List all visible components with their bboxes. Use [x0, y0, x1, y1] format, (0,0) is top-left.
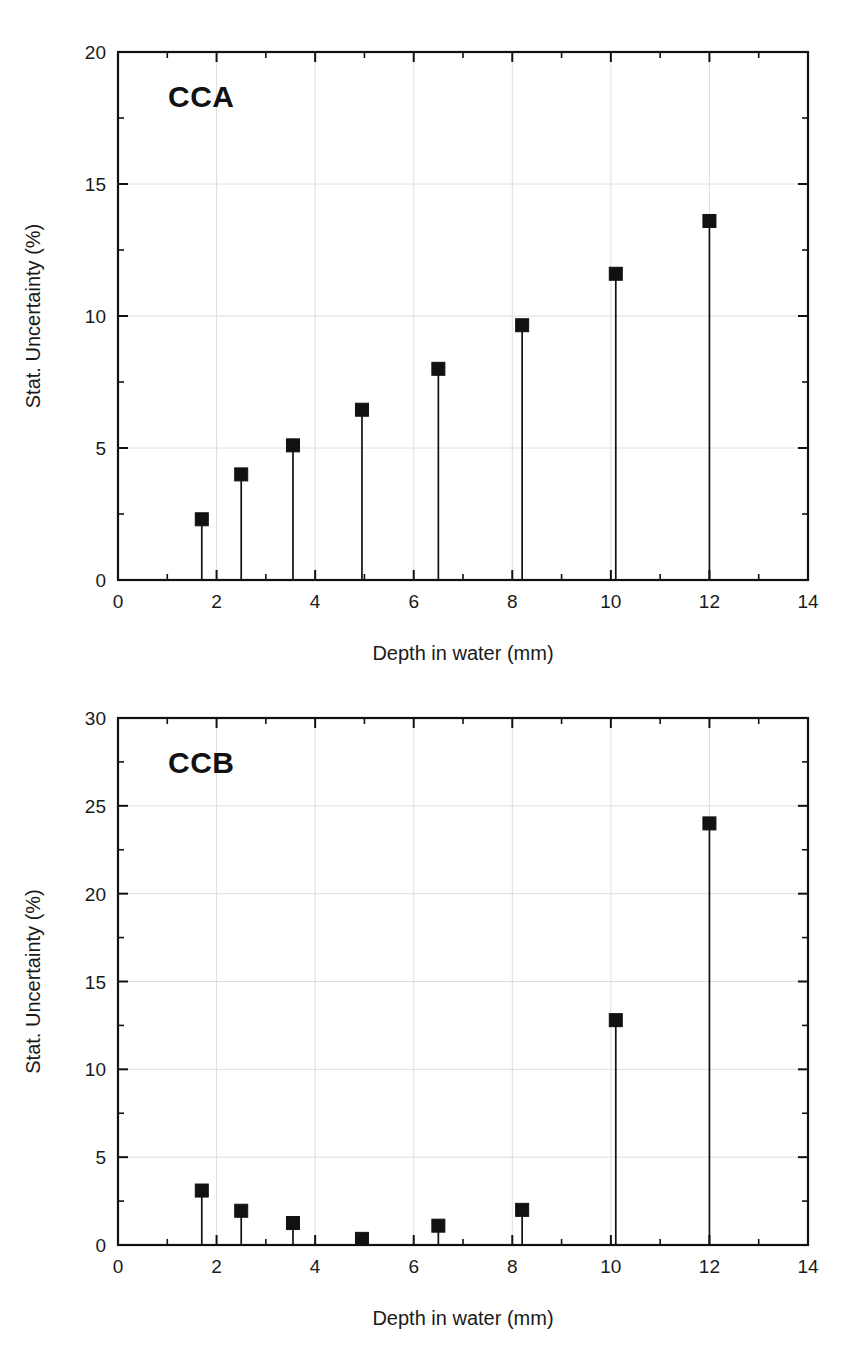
y-axis-tick-label: 25	[85, 796, 106, 817]
data-series-group	[195, 817, 716, 1245]
y-axis-title: Stat. Uncertainty (%)	[22, 224, 44, 409]
data-point-marker	[432, 362, 445, 375]
data-point-marker	[703, 817, 716, 830]
panel-title-ccb: CCB	[168, 746, 235, 779]
data-point-marker	[286, 1217, 299, 1230]
x-axis-tick-label: 0	[113, 591, 124, 612]
x-axis-title: Depth in water (mm)	[372, 642, 553, 664]
x-axis-tick-label: 4	[310, 1256, 321, 1277]
x-axis-tick-label: 12	[699, 1256, 720, 1277]
chart-panel-ccb: 02468101214051015202530Depth in water (m…	[0, 685, 855, 1369]
panel-title-cca: CCA	[168, 80, 235, 113]
y-axis-tick-label: 5	[95, 1147, 106, 1168]
labels-group: 02468101214051015202530Depth in water (m…	[22, 708, 819, 1329]
y-axis-tick-label: 0	[95, 570, 106, 591]
x-axis-tick-label: 0	[113, 1256, 124, 1277]
y-axis-tick-label: 10	[85, 1059, 106, 1080]
data-point-marker	[516, 1203, 529, 1216]
data-point-marker	[355, 1232, 368, 1245]
gridlines-group	[118, 52, 808, 580]
data-point-marker	[286, 439, 299, 452]
gridlines-group	[118, 718, 808, 1245]
y-axis-title: Stat. Uncertainty (%)	[22, 889, 44, 1074]
x-axis-tick-label: 10	[600, 591, 621, 612]
y-axis-tick-label: 0	[95, 1235, 106, 1256]
data-point-marker	[355, 403, 368, 416]
y-axis-tick-label: 15	[85, 972, 106, 993]
data-point-marker	[432, 1219, 445, 1232]
x-axis-title: Depth in water (mm)	[372, 1307, 553, 1329]
data-point-marker	[195, 513, 208, 526]
y-axis-tick-label: 20	[85, 42, 106, 63]
data-point-marker	[703, 214, 716, 227]
data-series-group	[195, 214, 716, 580]
y-axis-tick-label: 15	[85, 174, 106, 195]
x-axis-tick-label: 14	[797, 1256, 819, 1277]
x-axis-tick-label: 10	[600, 1256, 621, 1277]
chart-panel-cca: 0246810121405101520Depth in water (mm)St…	[0, 0, 855, 685]
x-axis-tick-label: 2	[211, 591, 222, 612]
y-axis-tick-label: 5	[95, 438, 106, 459]
x-axis-tick-label: 12	[699, 591, 720, 612]
data-point-marker	[609, 267, 622, 280]
y-axis-tick-label: 20	[85, 884, 106, 905]
data-point-marker	[235, 468, 248, 481]
data-point-marker	[609, 1014, 622, 1027]
figure-page: 0246810121405101520Depth in water (mm)St…	[0, 0, 855, 1369]
x-axis-tick-label: 14	[797, 591, 819, 612]
y-axis-tick-label: 10	[85, 306, 106, 327]
x-axis-tick-label: 6	[408, 591, 419, 612]
x-axis-tick-label: 8	[507, 591, 518, 612]
data-point-marker	[235, 1204, 248, 1217]
chart-canvas-cca: 0246810121405101520Depth in water (mm)St…	[0, 0, 855, 685]
x-axis-tick-label: 8	[507, 1256, 518, 1277]
x-axis-tick-label: 4	[310, 591, 321, 612]
x-axis-tick-label: 2	[211, 1256, 222, 1277]
chart-canvas-ccb: 02468101214051015202530Depth in water (m…	[0, 685, 855, 1369]
data-point-marker	[195, 1184, 208, 1197]
labels-group: 0246810121405101520Depth in water (mm)St…	[22, 42, 819, 664]
data-point-marker	[516, 319, 529, 332]
y-axis-tick-label: 30	[85, 708, 106, 729]
x-axis-tick-label: 6	[408, 1256, 419, 1277]
